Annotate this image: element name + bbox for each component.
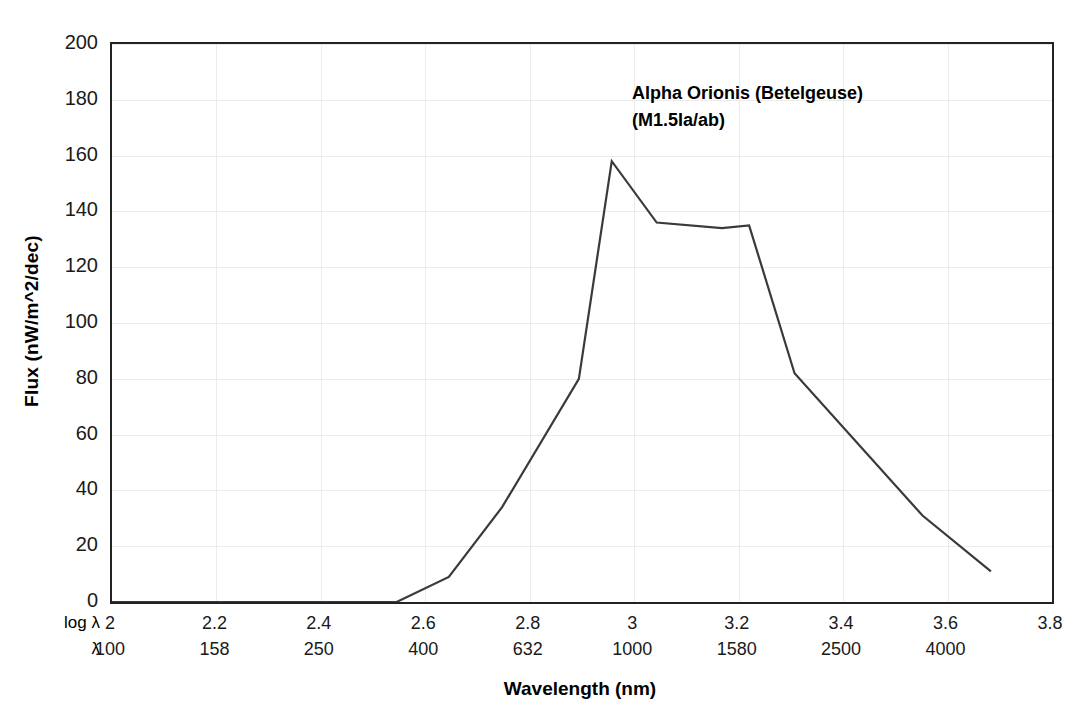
y-axis-tick-label: 120 — [50, 255, 98, 275]
annotation-line-1: Alpha Orionis (Betelgeuse) — [632, 80, 863, 107]
x-axis-row-lambda: λ 1001582504006321000158025004000 — [0, 638, 1090, 664]
x-axis-tick-label-log-lambda: 2.2 — [174, 612, 254, 634]
y-axis-tick-label: 80 — [50, 367, 98, 387]
x-axis-tick-label-log-lambda: 2 — [70, 612, 150, 634]
x-axis-tick-label-log-lambda: 3.8 — [1010, 612, 1090, 634]
x-axis-tick-label-log-lambda: 2.8 — [488, 612, 568, 634]
x-axis-tick-label-log-lambda: 3 — [592, 612, 672, 634]
x-axis-tick-label-lambda: 2500 — [801, 638, 881, 660]
x-axis-tick-label-lambda: 632 — [488, 638, 568, 660]
x-axis-row-log-lambda: log λ 22.22.42.62.833.23.43.63.8 — [0, 612, 1090, 638]
y-axis-tick-label: 180 — [50, 88, 98, 108]
annotation-line-2: (M1.5Ia/ab) — [632, 107, 863, 134]
x-axis-tick-label-lambda: 400 — [383, 638, 463, 660]
x-axis-tick-label-log-lambda: 3.4 — [801, 612, 881, 634]
y-axis-tick-label: 100 — [50, 311, 98, 331]
x-axis-tick-label-lambda: 1000 — [592, 638, 672, 660]
x-axis-tick-rows: log λ 22.22.42.62.833.23.43.63.8 λ 10015… — [0, 612, 1090, 672]
y-axis-tick-label: 200 — [50, 32, 98, 52]
plot-area: Alpha Orionis (Betelgeuse) (M1.5Ia/ab) — [110, 42, 1054, 604]
x-axis-tick-label-log-lambda: 3.2 — [697, 612, 777, 634]
x-axis-tick-label-lambda: 100 — [70, 638, 150, 660]
chart-figure: Flux (nW/m^2/dec) 0204060801001201401601… — [0, 0, 1090, 727]
x-axis-tick-label-lambda: 4000 — [906, 638, 986, 660]
x-axis-tick-label-lambda: 250 — [279, 638, 359, 660]
x-axis-tick-label-log-lambda: 2.4 — [279, 612, 359, 634]
x-axis-title: Wavelength (nm) — [110, 678, 1050, 700]
y-axis-title: Flux (nW/m^2/dec) — [21, 171, 43, 471]
y-axis-tick-label: 0 — [50, 590, 98, 610]
y-axis-tick-label: 140 — [50, 199, 98, 219]
x-axis-tick-label-log-lambda: 2.6 — [383, 612, 463, 634]
x-axis-tick-label-lambda: 1580 — [697, 638, 777, 660]
y-axis-tick-label: 60 — [50, 423, 98, 443]
y-axis-tick-label: 160 — [50, 144, 98, 164]
y-axis-tick-label: 20 — [50, 534, 98, 554]
x-axis-tick-label-log-lambda: 3.6 — [906, 612, 986, 634]
y-axis-tick-label: 40 — [50, 478, 98, 498]
x-axis-tick-label-lambda: 158 — [174, 638, 254, 660]
annotation-layer: Alpha Orionis (Betelgeuse) (M1.5Ia/ab) — [112, 44, 1052, 602]
series-annotation: Alpha Orionis (Betelgeuse) (M1.5Ia/ab) — [632, 80, 863, 134]
